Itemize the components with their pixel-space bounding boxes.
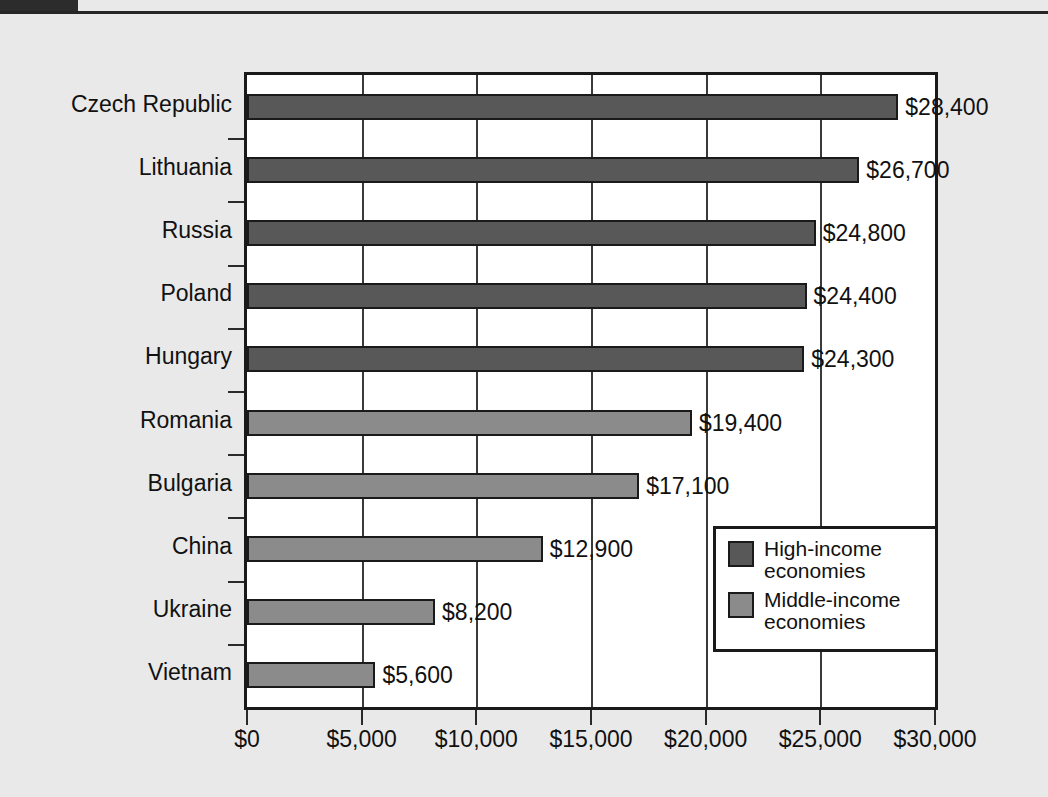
bar-ukraine[interactable]: [247, 599, 435, 625]
bar-value-label: $12,900: [545, 538, 633, 561]
category-label: Poland: [0, 282, 232, 305]
y-axis-tick: [228, 328, 244, 330]
y-axis-tick: [228, 644, 244, 646]
bar-chart-figure: Czech RepublicLithuaniaRussiaPolandHunga…: [0, 14, 1048, 797]
bar-row: [247, 454, 935, 517]
bar-czech-republic[interactable]: [247, 94, 898, 120]
bar-bulgaria[interactable]: [247, 473, 639, 499]
bar-romania[interactable]: [247, 410, 692, 436]
category-label: Romania: [0, 408, 232, 431]
x-axis-tick-label: $30,000: [893, 728, 976, 751]
x-axis-tick: [246, 710, 248, 725]
x-axis-tick: [361, 710, 363, 725]
y-axis-tick: [228, 138, 244, 140]
x-axis-tick: [590, 710, 592, 725]
chart-legend: High-income economies Middle-income econ…: [713, 526, 938, 652]
x-axis-tick: [705, 710, 707, 725]
y-axis-tick: [228, 201, 244, 203]
bar-value-label: $5,600: [377, 664, 452, 687]
category-label: Ukraine: [0, 598, 232, 621]
legend-item-high-income: High-income economies: [728, 538, 925, 583]
category-label: Vietnam: [0, 661, 232, 684]
bar-row: [247, 138, 935, 201]
category-label: China: [0, 535, 232, 558]
bar-russia[interactable]: [247, 220, 816, 246]
bar-row: [247, 391, 935, 454]
category-label: Hungary: [0, 345, 232, 368]
x-axis-tick-label: $15,000: [549, 728, 632, 751]
y-axis-tick: [228, 454, 244, 456]
category-label: Bulgaria: [0, 471, 232, 494]
bar-row: [247, 644, 935, 707]
category-label: Lithuania: [0, 155, 232, 178]
x-axis-tick: [819, 710, 821, 725]
corner-block-decoration: [0, 0, 78, 11]
bar-value-label: $8,200: [437, 601, 512, 624]
bar-value-label: $26,700: [861, 158, 949, 181]
x-axis-tick-label: $25,000: [779, 728, 862, 751]
x-axis-tick: [475, 710, 477, 725]
x-axis-tick-label: $10,000: [435, 728, 518, 751]
bar-poland[interactable]: [247, 283, 807, 309]
legend-label-middle-income: Middle-income economies: [764, 589, 901, 634]
bar-value-label: $17,100: [641, 474, 729, 497]
y-axis-tick: [228, 517, 244, 519]
y-axis-tick: [228, 265, 244, 267]
legend-label-high-income: High-income economies: [764, 538, 882, 583]
bar-value-label: $19,400: [694, 411, 782, 434]
bar-value-label: $24,800: [818, 222, 906, 245]
y-axis-tick: [228, 391, 244, 393]
y-axis-category-labels: Czech RepublicLithuaniaRussiaPolandHunga…: [0, 72, 232, 710]
legend-swatch-high-income-icon: [728, 541, 754, 567]
category-label: Czech Republic: [0, 92, 232, 115]
bar-lithuania[interactable]: [247, 157, 859, 183]
y-axis-tick: [228, 581, 244, 583]
legend-item-middle-income: Middle-income economies: [728, 589, 925, 634]
x-axis-tick: [934, 710, 936, 725]
page-canvas: Czech RepublicLithuaniaRussiaPolandHunga…: [0, 0, 1048, 797]
bar-hungary[interactable]: [247, 346, 804, 372]
bar-value-label: $24,400: [809, 285, 897, 308]
bar-value-label: $28,400: [900, 95, 988, 118]
legend-swatch-middle-income-icon: [728, 592, 754, 618]
x-axis-tick-label: $5,000: [326, 728, 396, 751]
x-axis-tick-label: $0: [234, 728, 260, 751]
x-axis-tick-label: $20,000: [664, 728, 747, 751]
bar-vietnam[interactable]: [247, 662, 375, 688]
category-label: Russia: [0, 219, 232, 242]
bar-china[interactable]: [247, 536, 543, 562]
bar-value-label: $24,300: [806, 348, 894, 371]
bar-row: [247, 75, 935, 138]
